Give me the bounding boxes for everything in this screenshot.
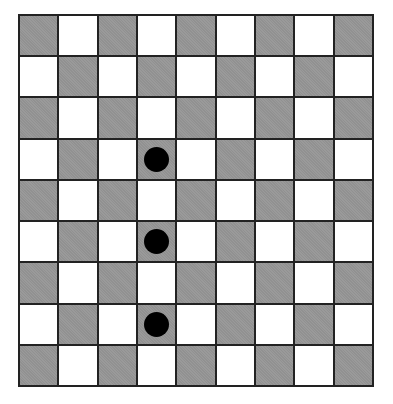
- board-cell: [98, 56, 137, 97]
- board-cell: [58, 139, 97, 180]
- board-cell: [216, 304, 255, 345]
- black-dot-icon: [144, 147, 169, 172]
- board-cell: [176, 97, 215, 138]
- board-cell: [19, 97, 58, 138]
- board-cell: [98, 139, 137, 180]
- board-cell: [294, 304, 333, 345]
- board-cell: [294, 262, 333, 303]
- board-cell: [334, 221, 373, 262]
- board-cell: [137, 304, 176, 345]
- board-cell: [19, 139, 58, 180]
- board-cell: [294, 139, 333, 180]
- board-cell: [255, 180, 294, 221]
- board-cell: [255, 15, 294, 56]
- board-cell: [255, 97, 294, 138]
- board-cell: [58, 56, 97, 97]
- black-dot-icon: [144, 312, 169, 337]
- board-cell: [19, 345, 58, 386]
- board-cell: [176, 15, 215, 56]
- board-cell: [216, 180, 255, 221]
- board-cell: [19, 15, 58, 56]
- board-cell: [294, 97, 333, 138]
- board-cell: [176, 56, 215, 97]
- board-cell: [137, 221, 176, 262]
- board-cell: [19, 262, 58, 303]
- board-cell: [58, 180, 97, 221]
- board-cell: [216, 345, 255, 386]
- board-cell: [334, 345, 373, 386]
- board-cell: [334, 15, 373, 56]
- board-cell: [58, 304, 97, 345]
- board-cell: [176, 180, 215, 221]
- board-cell: [58, 221, 97, 262]
- board-cell: [176, 221, 215, 262]
- board-cell: [255, 262, 294, 303]
- board-cell: [19, 56, 58, 97]
- board-cell: [19, 221, 58, 262]
- board-cell: [137, 15, 176, 56]
- board-cell: [98, 221, 137, 262]
- board-cell: [216, 221, 255, 262]
- board-cell: [294, 345, 333, 386]
- board-cell: [98, 180, 137, 221]
- board-cell: [255, 304, 294, 345]
- board-cell: [255, 221, 294, 262]
- board-cell: [294, 180, 333, 221]
- board-cell: [98, 97, 137, 138]
- board-cell: [294, 221, 333, 262]
- board-cell: [137, 180, 176, 221]
- board-cell: [176, 262, 215, 303]
- board-cell: [58, 15, 97, 56]
- black-dot-icon: [144, 229, 169, 254]
- board-cell: [334, 56, 373, 97]
- board-cell: [294, 15, 333, 56]
- board-cell: [137, 56, 176, 97]
- board-cell: [19, 304, 58, 345]
- checkerboard: [18, 14, 374, 387]
- board-cell: [58, 262, 97, 303]
- board-cell: [98, 15, 137, 56]
- board-cell: [98, 304, 137, 345]
- board-cell: [176, 139, 215, 180]
- board-cell: [137, 262, 176, 303]
- board-cell: [216, 262, 255, 303]
- board-cell: [334, 139, 373, 180]
- board-cell: [255, 345, 294, 386]
- board-cell: [176, 345, 215, 386]
- board-cell: [255, 56, 294, 97]
- board-cell: [98, 345, 137, 386]
- board-cell: [294, 56, 333, 97]
- board-cell: [255, 139, 294, 180]
- board-cell: [58, 97, 97, 138]
- board-cell: [137, 139, 176, 180]
- board-cell: [216, 15, 255, 56]
- board-cell: [137, 97, 176, 138]
- board-cell: [216, 97, 255, 138]
- board-cell: [58, 345, 97, 386]
- board-cell: [334, 180, 373, 221]
- board-cell: [216, 139, 255, 180]
- board-cell: [19, 180, 58, 221]
- board-cell: [334, 97, 373, 138]
- board-cell: [334, 262, 373, 303]
- board-cell: [137, 345, 176, 386]
- board-cell: [334, 304, 373, 345]
- board-cell: [216, 56, 255, 97]
- board-cell: [98, 262, 137, 303]
- board-cell: [176, 304, 215, 345]
